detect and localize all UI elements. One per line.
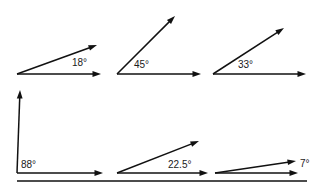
- angle-7-slanted-ray-line: [215, 162, 290, 173]
- angle-18-horizontal-ray-arrowhead-icon: [93, 71, 102, 77]
- angle-row-top-row: [17, 16, 306, 77]
- angle-18-slanted-ray-arrowhead-icon: [88, 45, 97, 51]
- angle-22-5-label: 22.5°: [168, 159, 191, 170]
- angle-7-slanted-ray-arrowhead-icon: [287, 159, 296, 165]
- angle-7: [215, 159, 298, 176]
- angle-22-5-slanted-ray-arrowhead-icon: [190, 141, 199, 147]
- rays-group: [17, 16, 307, 181]
- angle-88-slanted-ray-arrowhead-icon: [17, 90, 23, 99]
- angle-88-horizontal-ray-arrowhead-icon: [95, 170, 104, 176]
- angle-33-slanted-ray-arrowhead-icon: [275, 28, 284, 35]
- angle-18: [17, 45, 101, 77]
- angle-7-label: 7°: [300, 158, 310, 169]
- angle-row-bottom-row: [17, 90, 307, 181]
- angle-7-horizontal-ray-arrowhead-icon: [290, 170, 299, 176]
- angle-88-slanted-ray-line: [17, 96, 20, 173]
- angle-33-label: 33°: [238, 59, 253, 70]
- angle-22-5-horizontal-ray-arrowhead-icon: [200, 170, 209, 176]
- angle-22-5: [117, 141, 208, 176]
- angle-45-label: 45°: [134, 59, 149, 70]
- angle-33-horizontal-ray-arrowhead-icon: [298, 71, 307, 77]
- angle-diagram-canvas: 18°45°33°88°22.5°7°: [0, 0, 322, 191]
- angle-33: [213, 28, 306, 77]
- angle-88-label: 88°: [21, 159, 36, 170]
- angle-45-horizontal-ray-arrowhead-icon: [193, 71, 202, 77]
- angle-18-label: 18°: [72, 57, 87, 68]
- angle-diagram-figure: 18°45°33°88°22.5°7°: [0, 0, 322, 191]
- angle-45: [117, 16, 201, 77]
